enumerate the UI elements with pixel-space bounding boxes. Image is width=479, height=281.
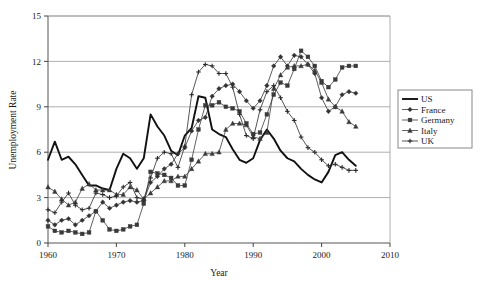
data-point-marker [87,213,92,218]
data-point-marker [196,118,201,123]
data-point-marker [87,231,91,235]
data-point-marker [94,209,98,213]
data-point-marker [115,229,119,233]
data-point-marker [313,64,317,68]
data-point-marker [53,223,58,228]
data-point-marker [46,224,50,228]
data-point-marker [67,229,71,233]
legend-label: Italy [421,126,438,136]
data-point-marker [46,185,51,189]
data-point-marker [326,109,331,114]
data-point-marker [128,198,133,203]
data-point-marker [189,92,194,97]
series-line [48,55,356,224]
data-point-marker [333,162,338,167]
data-point-marker [100,192,105,197]
data-point-marker [251,136,256,141]
data-point-marker [354,91,359,96]
data-point-marker [217,100,221,104]
data-point-marker [80,207,85,212]
x-tick-label: 1980 [176,250,195,260]
series-line [48,64,356,205]
y-tick-label: 0 [37,238,42,248]
data-point-marker [340,92,345,97]
data-point-marker [108,227,112,231]
unemployment-rate-line-chart: 03691215 196019701980199020002010 Unempl… [0,0,479,281]
data-point-marker [224,105,228,109]
y-axis-title: Unemployment Rate [8,91,18,170]
x-tick-label: 1960 [39,250,58,260]
data-point-marker [53,229,57,233]
data-point-marker [46,207,51,212]
data-point-marker [354,124,359,128]
chart-container: 03691215 196019701980199020002010 Unempl… [0,0,479,281]
data-point-marker [121,227,125,231]
y-tick-label: 15 [32,11,42,21]
data-point-marker [53,210,58,215]
data-point-marker [162,173,166,177]
data-point-marker [299,135,304,140]
data-point-marker [224,71,229,76]
legend-box: USFranceGermanyItalyUK [398,90,472,148]
series-germany [46,49,358,236]
legend-label: US [421,94,433,104]
series-line [48,96,356,190]
data-point-marker [354,168,359,173]
x-tick-labels: 196019701980199020002010 [39,250,400,260]
data-point-marker [60,231,64,235]
x-tick-label: 2000 [313,250,332,260]
legend-label: France [421,105,446,115]
series-line [48,51,356,234]
data-point-marker [190,158,194,162]
y-tick-label: 9 [37,102,42,112]
data-point-marker [59,218,64,223]
y-tick-label: 3 [37,193,42,203]
data-point-marker [327,85,331,89]
grid-lines [48,16,390,198]
data-point-marker [224,83,229,88]
data-point-marker [142,202,146,206]
data-point-marker [231,106,235,110]
data-point-marker [408,118,412,122]
data-point-marker [80,218,85,223]
data-point-marker [135,200,140,205]
x-axis-title: Year [210,268,228,278]
data-point-marker [244,133,249,138]
data-point-marker [73,231,77,235]
data-point-marker [203,103,207,107]
y-tick-labels: 03691215 [32,11,42,248]
data-point-marker [279,81,283,85]
data-point-marker [176,184,180,188]
data-point-marker [347,168,352,173]
legend-label: UK [421,136,434,146]
data-series [46,49,358,236]
data-point-marker [347,89,352,94]
data-point-marker [169,162,174,167]
data-point-marker [80,186,85,190]
data-point-marker [333,78,337,82]
data-point-marker [183,184,187,188]
data-point-marker [197,128,201,132]
data-point-marker [121,200,126,205]
data-point-marker [299,49,303,53]
series-uk [46,62,358,215]
data-point-marker [292,53,297,58]
data-point-marker [258,108,263,113]
data-point-marker [306,145,311,150]
series-us [48,96,356,190]
data-point-marker [258,131,262,135]
data-point-marker [46,218,51,223]
data-point-marker [340,66,344,70]
data-point-marker [176,165,181,170]
data-point-marker [128,224,132,228]
data-point-marker [107,195,112,200]
plot-frame [48,16,390,243]
data-point-marker [340,165,345,170]
data-point-marker [347,64,351,68]
data-point-marker [114,203,119,208]
data-point-marker [278,95,283,100]
data-point-marker [326,97,331,101]
data-point-marker [128,180,133,185]
data-point-marker [340,109,345,113]
legend-label: Germany [421,115,455,125]
